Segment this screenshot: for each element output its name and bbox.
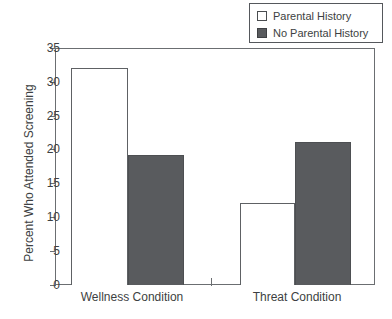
bar-threat-no-parental-history	[295, 142, 351, 285]
y-tick-label-30: 30	[34, 76, 60, 88]
y-axis-title: Percent Who Attended Screening	[22, 58, 36, 288]
bar-wellness-parental-history	[71, 68, 128, 285]
x-axis-group-separator-tick	[211, 278, 212, 286]
bar-wellness-no-parental-history	[128, 155, 184, 285]
legend-label-no-parental-history: No Parental History	[273, 27, 368, 39]
open-square-swatch-icon	[257, 11, 267, 21]
y-tick-label-10: 10	[34, 211, 60, 223]
bars-layer	[55, 48, 375, 285]
x-tick-label-wellness-condition: Wellness Condition	[52, 290, 212, 304]
y-tick-label-20: 20	[34, 143, 60, 155]
bar-threat-parental-history	[240, 203, 295, 285]
filled-square-swatch-icon	[257, 28, 267, 38]
legend-entry-parental-history: Parental History	[257, 8, 382, 23]
x-tick-label-threat-condition: Threat Condition	[222, 290, 372, 304]
legend-label-parental-history: Parental History	[273, 10, 351, 22]
legend-entry-no-parental-history: No Parental History	[257, 25, 382, 40]
y-tick-label-25: 25	[34, 110, 60, 122]
y-tick-label-5: 5	[34, 245, 60, 257]
y-tick-label-35: 35	[34, 42, 60, 54]
y-tick-label-15: 15	[34, 177, 60, 189]
chart-legend: Parental History No Parental History	[249, 3, 383, 43]
